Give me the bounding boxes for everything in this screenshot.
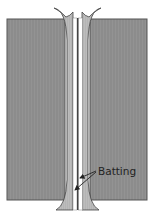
batting-label: Batting [98,165,136,177]
left-fabric-panel [7,19,65,200]
batting-left [73,18,77,210]
batting-right [79,18,83,210]
quilt-seam-diagram: Batting [0,0,155,221]
